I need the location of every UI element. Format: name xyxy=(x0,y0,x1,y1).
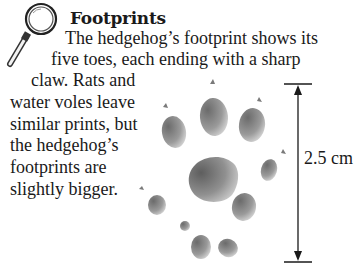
magnifying-glass-icon xyxy=(10,4,56,64)
heel-pad xyxy=(216,236,241,260)
claw-mark xyxy=(139,186,144,190)
heel-pad xyxy=(230,191,258,223)
toe-pad xyxy=(159,114,188,150)
heel-pad xyxy=(191,235,211,259)
toe-pad xyxy=(258,157,279,182)
body-text-line: similar prints, but xyxy=(10,114,138,135)
body-text-line: five toes, each ending with a sharp xyxy=(51,49,300,70)
claw-mark xyxy=(163,103,168,108)
body-text-line: The hedgehog’s footprint shows its xyxy=(65,28,318,49)
toe-pad xyxy=(148,195,166,215)
hedgehog-footprint xyxy=(139,79,286,260)
measurement-label: 2.5 cm xyxy=(304,148,353,169)
claw-mark xyxy=(257,97,262,102)
toe-pad xyxy=(237,106,267,143)
body-text-line: water voles leave xyxy=(10,92,135,113)
toe-pad xyxy=(198,97,229,137)
claw-mark xyxy=(281,149,286,154)
body-text-line: claw. Rats and xyxy=(31,70,135,91)
heel-dot xyxy=(180,221,190,231)
arrow-up-icon xyxy=(294,85,302,95)
body-text-line: the hedgehog’s xyxy=(10,135,118,156)
body-text-line: slightly bigger. xyxy=(10,179,118,200)
section-title: Footprints xyxy=(70,8,166,28)
measurement-indicator xyxy=(284,84,312,262)
claw-mark xyxy=(210,79,215,84)
main-pad xyxy=(189,157,238,202)
arrow-down-icon xyxy=(294,251,302,261)
body-text-line: footprints are xyxy=(10,157,106,178)
